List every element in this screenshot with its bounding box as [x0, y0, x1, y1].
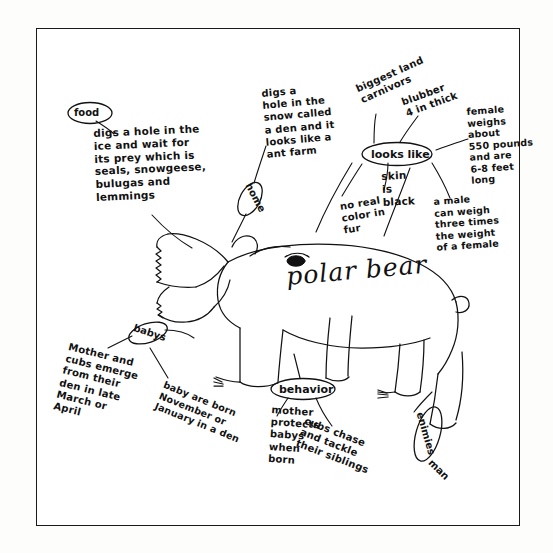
- node-label-behavior[interactable]: behavior: [279, 383, 334, 396]
- note-male-size: a male can weigh three times the weight …: [433, 192, 501, 254]
- note-fur-color: no real color in fur: [339, 194, 388, 237]
- node-label-food[interactable]: food: [74, 107, 99, 118]
- mind-map-page: food home looks like babys behavior enim…: [0, 0, 553, 553]
- node-label-looks-like[interactable]: looks like: [371, 148, 430, 161]
- note-female-size: female weighs about 550 pounds and are 6…: [466, 102, 536, 187]
- note-skin-black: skin is black: [381, 168, 415, 208]
- note-food: digs a hole in the ice and wait for its …: [93, 122, 207, 204]
- note-home: digs a hole in the snow called a den and…: [261, 82, 337, 161]
